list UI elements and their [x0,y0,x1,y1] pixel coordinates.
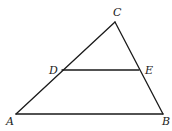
label-d: D [48,64,58,77]
label-c: C [113,6,122,19]
label-a: A [5,115,14,128]
triangle-diagram: C D E A B [0,0,172,131]
segment-bc [115,22,163,114]
segment-ca [16,22,115,114]
label-b: B [161,115,170,128]
label-e: E [144,64,153,77]
